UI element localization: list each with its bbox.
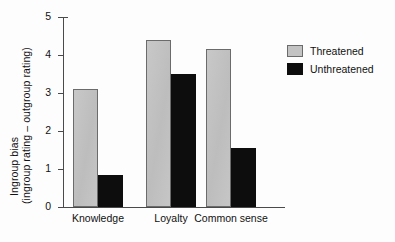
- y-axis-tick-label: 4: [45, 48, 51, 61]
- y-axis-title: Ingroup bias (ingroup rating – outgroup …: [0, 0, 46, 208]
- legend-swatch-unthreatened: [287, 63, 303, 75]
- y-axis-tick-label: 3: [45, 86, 51, 99]
- x-axis-line: [63, 207, 285, 208]
- y-axis-line: [63, 17, 64, 208]
- y-axis-tick-label: 2: [45, 124, 51, 137]
- y-axis-tick: 5: [58, 17, 63, 18]
- y-axis-tick-label: 5: [45, 10, 51, 23]
- bar-knowledge-unthreatened: [98, 175, 123, 207]
- bar-loyalty-unthreatened: [171, 74, 196, 207]
- x-axis-category-label: Loyalty: [154, 212, 187, 224]
- legend-item-unthreatened: Unthreatened: [287, 62, 374, 75]
- y-axis-top-cap: [63, 17, 68, 18]
- y-axis-tick: 2: [58, 131, 63, 132]
- bar-common-sense-threatened: [206, 49, 231, 207]
- x-axis-category-label: Knowledge: [72, 212, 124, 224]
- legend-item-threatened: Threatened: [287, 44, 374, 57]
- bar-knowledge-threatened: [73, 89, 98, 207]
- y-axis-title-line-1: Ingroup bias: [8, 137, 20, 196]
- legend-label-threatened: Threatened: [310, 45, 364, 57]
- y-axis-tick-label: 0: [45, 200, 51, 213]
- y-axis-tick: 3: [58, 93, 63, 94]
- bar-common-sense-unthreatened: [231, 148, 256, 207]
- legend-label-unthreatened: Unthreatened: [310, 63, 374, 75]
- y-axis-tick: 4: [58, 55, 63, 56]
- plot-area: 012345: [63, 17, 285, 208]
- bar-loyalty-threatened: [146, 40, 171, 207]
- y-axis-tick: 0: [58, 207, 63, 208]
- x-axis-category-label: Common sense: [194, 212, 268, 224]
- bar-chart-figure: Ingroup bias (ingroup rating – outgroup …: [0, 0, 395, 242]
- legend: Threatened Unthreatened: [287, 44, 374, 80]
- y-axis-tick: 1: [58, 169, 63, 170]
- legend-swatch-threatened: [287, 45, 303, 57]
- y-axis-tick-label: 1: [45, 162, 51, 175]
- y-axis-title-line-2: (ingroup rating – outgroup rating): [20, 47, 32, 204]
